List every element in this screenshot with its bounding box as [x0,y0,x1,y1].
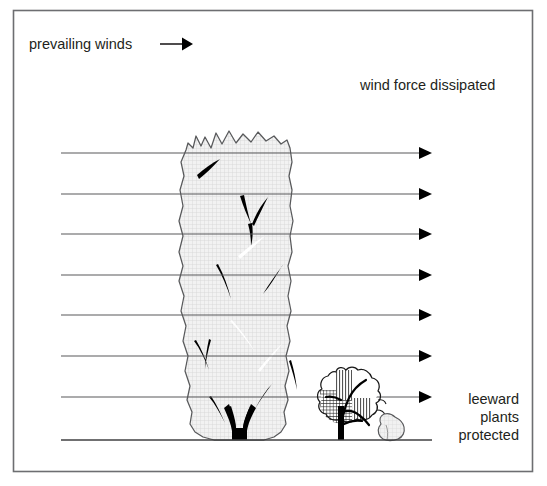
rock [375,412,407,442]
prevailing-winds-arrow [160,38,193,51]
wind-force-dissipated-label: wind force dissipated [359,77,495,93]
shrub-trunk [338,406,344,440]
windbreak-diagram: prevailing winds wind force dissipated l… [0,0,547,486]
leeward-label-line-3: protected [459,427,519,443]
leeward-label-line-1: leeward [468,391,519,407]
prevailing-winds-label: prevailing winds [29,36,132,52]
diagram-canvas: prevailing winds wind force dissipated l… [0,0,547,486]
leeward-label-line-2: plants [480,409,519,425]
leeward-shrub [316,365,386,440]
leeward-plants-protected-label: leeward plants protected [459,391,519,443]
